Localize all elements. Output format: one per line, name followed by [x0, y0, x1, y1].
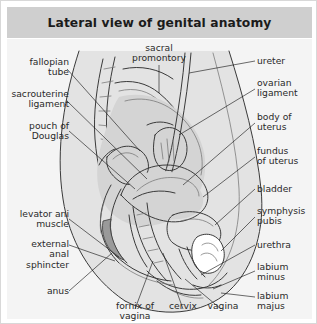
label-body-of-uterus: body of uterus: [257, 112, 315, 133]
figure-title: Lateral view of genital anatomy: [7, 7, 312, 38]
illustration-canvas: .o{fill:none;stroke:#3a3a3a;stroke-width…: [7, 39, 312, 319]
label-sacrouterine-ligament: sacrouterine ligament: [7, 89, 69, 110]
label-fallopian-tube: fallopian tube: [7, 57, 69, 78]
label-levator-ani-muscle: levator ani muscle: [7, 209, 69, 230]
label-fornix-of-vagina: fornix of vagina: [103, 301, 167, 322]
label-ureter: ureter: [257, 56, 315, 66]
label-vagina: vagina: [199, 301, 247, 311]
label-symphysis-pubis: symphysis pubis: [257, 206, 315, 227]
label-fundus-of-uterus: fundus of uterus: [257, 146, 315, 167]
label-urethra: urethra: [257, 240, 315, 250]
figure-title-bar: Lateral view of genital anatomy: [7, 7, 312, 38]
anatomy-figure: Lateral view of genital anatomy .o{fill:…: [0, 0, 317, 324]
label-bladder: bladder: [257, 184, 315, 194]
label-labium-majus: labium majus: [257, 291, 315, 312]
label-ovarian-ligament: ovarian ligament: [257, 78, 315, 99]
label-pouch-of-douglas: pouch of Douglas: [7, 121, 69, 142]
label-labium-minus: labium minus: [257, 262, 315, 283]
label-external-anal-sphincter: external anal sphincter: [7, 239, 69, 270]
label-sacral-promontory: sacral promontory: [119, 43, 199, 64]
label-anus: anus: [7, 286, 69, 296]
